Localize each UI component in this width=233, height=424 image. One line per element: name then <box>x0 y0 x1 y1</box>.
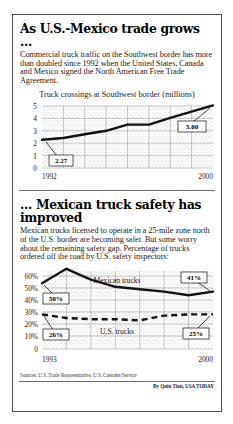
bottom-deck: Mexican trucks licensed to operate in a … <box>20 227 214 261</box>
top-x-end: 2000 <box>198 172 213 181</box>
svg-text:30%: 30% <box>24 308 38 317</box>
svg-text:0: 0 <box>33 164 37 173</box>
section-divider <box>19 190 215 191</box>
bottom-series-label-us: U.S. trucks <box>100 327 134 336</box>
bottom-y-axis-labels: 60% 50% 40% 30% 20% 10% 0 <box>24 272 38 354</box>
top-callout-start-label: 2.27 <box>55 157 68 165</box>
bottom-callout-mexican-start-label: 50% <box>49 295 63 303</box>
svg-text:50%: 50% <box>24 284 38 293</box>
svg-text:40%: 40% <box>24 296 38 305</box>
footer: Sources: U.S. Trade Representative, U.S.… <box>13 372 221 378</box>
top-chart-title: Truck crossings at Southwest border (mil… <box>20 90 214 99</box>
svg-text:60%: 60% <box>24 272 38 281</box>
top-callout-end-label: 5.00 <box>186 123 199 131</box>
svg-text:5: 5 <box>33 102 37 111</box>
top-chart-svg: 5 4 3 2 1 0 2.27 5.00 1992 2000 <box>13 100 221 186</box>
bottom-x-axis-labels: 1993 2000 <box>42 355 213 364</box>
top-chart: 5 4 3 2 1 0 2.27 5.00 1992 2000 <box>13 100 221 186</box>
bottom-series-label-mexican: Mexican trucks <box>93 276 140 285</box>
svg-text:10%: 10% <box>24 332 38 341</box>
svg-text:20%: 20% <box>24 320 38 329</box>
bottom-chart: 60% 50% 40% 30% 20% 10% 0 Mexican trucks… <box>13 267 221 369</box>
svg-text:0: 0 <box>34 345 38 354</box>
svg-text:2: 2 <box>33 140 37 149</box>
svg-text:3: 3 <box>33 127 37 136</box>
bottom-callout-mexican-end-label: 41% <box>187 274 201 282</box>
top-headline: As U.S.-Mexico trade grows ... <box>20 22 214 48</box>
bottom-section: ... Mexican truck safety has improved Me… <box>13 198 221 261</box>
bottom-headline: ... Mexican truck safety has improved <box>20 198 214 224</box>
svg-text:1: 1 <box>33 152 37 161</box>
bottom-x-start: 1993 <box>42 355 57 364</box>
bottom-callout-us-start-label: 26% <box>49 331 63 339</box>
source-line: Sources: U.S. Trade Representative, U.S.… <box>20 372 214 378</box>
top-x-axis-labels: 1992 2000 <box>42 172 213 181</box>
bottom-x-end: 2000 <box>198 355 213 364</box>
credit-line: By Quin Tian, USA TODAY <box>20 383 214 389</box>
bottom-callout-us-end-label: 25% <box>189 330 203 338</box>
top-y-axis-labels: 5 4 3 2 1 0 <box>33 102 37 173</box>
top-section: As U.S.-Mexico trade grows ... Commercia… <box>13 22 221 99</box>
credit-divider <box>19 381 215 382</box>
top-x-start: 1992 <box>42 172 57 181</box>
infographic-panel: As U.S.-Mexico trade grows ... Commercia… <box>12 14 222 412</box>
top-deck: Commercial truck traffic on the Southwes… <box>20 51 214 85</box>
bottom-chart-svg: 60% 50% 40% 30% 20% 10% 0 Mexican trucks… <box>13 267 221 369</box>
svg-text:4: 4 <box>33 115 37 124</box>
credit-wrap: By Quin Tian, USA TODAY <box>13 383 221 389</box>
